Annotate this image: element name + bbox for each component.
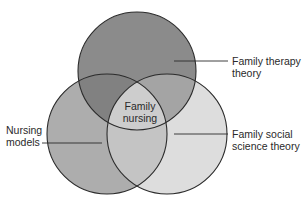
label-family-therapy: Family therapy theory	[232, 55, 301, 79]
label-family-social-science: Family social science theory	[232, 128, 300, 152]
label-nursing-models: Nursing models	[6, 124, 42, 148]
label-family-nursing-line2: nursing	[117, 112, 163, 124]
label-family-social-science-line1: Family social	[232, 128, 300, 140]
label-nursing-models-line1: Nursing	[6, 124, 42, 136]
label-family-nursing-line1: Family	[117, 100, 163, 112]
label-family-social-science-line2: science theory	[232, 140, 300, 152]
label-family-therapy-line1: Family therapy	[232, 55, 301, 67]
label-family-therapy-line2: theory	[232, 67, 301, 79]
label-nursing-models-line2: models	[6, 136, 42, 148]
label-family-nursing: Family nursing	[117, 100, 163, 124]
